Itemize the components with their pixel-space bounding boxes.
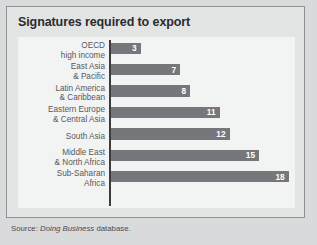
bar-row: Middle East & North Africa 15 — [18, 148, 295, 169]
bar-row: South Asia 12 — [18, 127, 295, 148]
bar-value-label: 3 — [132, 44, 137, 52]
category-label: Latin America & Caribbean — [6, 84, 105, 103]
bar-value-label: 8 — [181, 87, 186, 95]
bar-row: Latin America & Caribbean 8 — [18, 84, 295, 105]
bar-value-label: 18 — [275, 172, 284, 180]
bar-row: Sub-Saharan Africa 18 — [18, 169, 295, 190]
bar-row: East Asia & Pacific 7 — [18, 62, 295, 83]
category-label: Middle East & North Africa — [6, 148, 105, 167]
bar-row: OECD high income 3 — [18, 41, 295, 62]
source-suffix: database. — [94, 224, 130, 233]
category-label: OECD high income — [6, 41, 105, 60]
source-note: Source: Doing Business database. — [11, 224, 131, 233]
bar[interactable]: 15 — [111, 150, 259, 162]
bar[interactable]: 8 — [111, 85, 190, 97]
bar-row: Eastern Europe & Central Asia 11 — [18, 105, 295, 126]
bar-value-label: 7 — [171, 65, 176, 73]
chart-title: Signatures required to export — [18, 15, 190, 29]
chart-figure: Signatures required to export OECD high … — [6, 6, 305, 218]
category-label: East Asia & Pacific — [6, 62, 105, 81]
bar-value-label: 12 — [216, 130, 225, 138]
bar[interactable]: 18 — [111, 171, 289, 183]
plot-area: OECD high income 3 East Asia & Pacific 7… — [18, 37, 295, 208]
bar-value-label: 11 — [207, 108, 216, 116]
bar-value-label: 15 — [246, 151, 255, 159]
bar[interactable]: 3 — [111, 43, 141, 55]
bar[interactable]: 7 — [111, 64, 180, 76]
bar[interactable]: 12 — [111, 128, 230, 140]
source-publication: Doing Business — [40, 224, 94, 233]
bar[interactable]: 11 — [111, 107, 220, 119]
category-label: Sub-Saharan Africa — [6, 169, 105, 188]
category-label: Eastern Europe & Central Asia — [6, 105, 105, 124]
source-prefix: Source: — [11, 224, 40, 233]
category-label: South Asia — [6, 132, 105, 142]
